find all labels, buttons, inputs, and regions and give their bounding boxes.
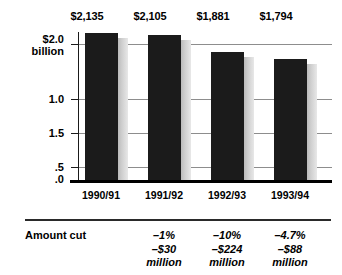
bar-shadow: [117, 38, 128, 181]
amount-cut-value: –$30: [129, 243, 199, 257]
bar-1992-93: [211, 52, 244, 181]
bar-1993-94: [274, 59, 307, 181]
x-axis-category-label: 1993/94: [255, 189, 325, 201]
amount-cut-value: –$88: [255, 243, 325, 257]
y-axis-tick-label: .5: [8, 162, 64, 173]
y-axis-tick-mark: [71, 99, 78, 100]
bar-1991-92: [148, 35, 181, 181]
table-cell-1991-92: –1% –$30 million: [129, 229, 199, 270]
x-axis-category-label: 1991/92: [129, 189, 199, 201]
y-axis-top-value: $2.0: [43, 33, 64, 45]
bar-value-label: $2,135: [57, 10, 117, 22]
x-axis-category-label: 1990/91: [66, 189, 136, 201]
amount-cut-percent: –4.7%: [255, 229, 325, 243]
bar-chart-figure: $2,135 $2,105 $1,881 $1,794 $2.0 billion…: [0, 0, 342, 275]
bar-value-label: $2,105: [120, 10, 180, 22]
y-axis-line: [78, 32, 79, 180]
bar-shadow: [306, 64, 317, 181]
bar-value-label: $1,881: [183, 10, 243, 22]
y-axis-top-label: $2.0 billion: [8, 33, 64, 57]
table-cell-1992-93: –10% –$224 million: [192, 229, 262, 270]
amount-cut-unit: million: [192, 256, 262, 270]
amount-cut-unit: million: [129, 256, 199, 270]
amount-cut-percent: –1%: [129, 229, 199, 243]
y-axis-tick-mark: [71, 167, 78, 168]
amount-cut-unit: million: [255, 256, 325, 270]
y-axis-tick-label: .0: [8, 174, 64, 185]
x-axis-baseline: [70, 180, 332, 183]
y-axis-tick-mark: [71, 44, 78, 45]
bar-shadow: [243, 57, 254, 181]
table-separator-rule: [25, 219, 331, 221]
x-axis-category-label: 1992/93: [192, 189, 262, 201]
y-axis-tick-label: 1.5: [8, 128, 64, 139]
table-row-label: Amount cut: [25, 229, 86, 241]
bar-1990-91: [85, 33, 118, 181]
y-axis-top-unit: billion: [32, 45, 64, 57]
bar-value-label: $1,794: [246, 10, 306, 22]
table-cell-1993-94: –4.7% –$88 million: [255, 229, 325, 270]
bar-shadow: [180, 40, 191, 181]
y-axis-tick-label: 1.0: [8, 94, 64, 105]
amount-cut-percent: –10%: [192, 229, 262, 243]
y-axis-tick-mark: [71, 133, 78, 134]
amount-cut-value: –$224: [192, 243, 262, 257]
